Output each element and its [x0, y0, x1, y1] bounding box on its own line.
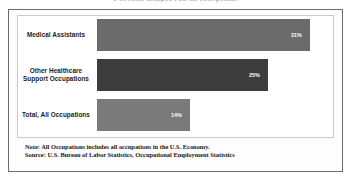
clipped-chart-title: Percent Employed in Hospitals [0, 0, 351, 2]
bar-total-all-occupations: 14% [97, 99, 190, 131]
chart-plot-area: Medical Assistants 31% Other Healthcare … [18, 16, 333, 137]
bar-category-label: Total, All Occupations [18, 111, 94, 119]
footnote-note-line: Note: All Occupations includes all occup… [25, 143, 325, 151]
bar-category-label-line1: Other Healthcare [30, 67, 82, 74]
bar-category-label: Medical Assistants [18, 31, 94, 39]
bar-value-label: 14% [171, 112, 182, 118]
bar-category-label-line1: Total, All Occupations [22, 111, 90, 118]
bar-value-label: 25% [249, 72, 260, 78]
bar-category-label: Other Healthcare Support Occupations [18, 67, 94, 84]
chart-figure: Percent Employed in Hospitals Medical As… [0, 0, 351, 181]
bar-row: Other Healthcare Support Occupations 25% [18, 59, 333, 91]
footnote-source-line: Source: U.S. Bureau of Labor Statistics,… [25, 151, 325, 159]
chart-footnote: Note: All Occupations includes all occup… [25, 143, 325, 160]
bar-row: Medical Assistants 31% [18, 19, 333, 51]
bar-other-healthcare-support-occupations: 25% [97, 59, 268, 91]
bar-category-label-line2: Support Occupations [23, 75, 89, 82]
bar-value-label: 31% [291, 32, 302, 38]
bar-medical-assistants: 31% [97, 19, 310, 51]
bar-category-label-line1: Medical Assistants [27, 31, 85, 38]
bar-row: Total, All Occupations 14% [18, 99, 333, 131]
